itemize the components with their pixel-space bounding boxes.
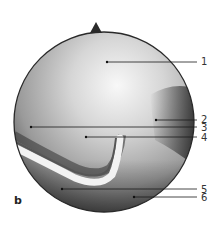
label-1: 1 <box>201 57 207 67</box>
label-6: 6 <box>201 193 207 203</box>
tissue-image <box>0 0 221 225</box>
endoscopic-view <box>0 0 221 225</box>
label-4: 4 <box>201 133 207 143</box>
panel-letter: b <box>14 194 22 207</box>
orientation-notch <box>90 22 102 33</box>
